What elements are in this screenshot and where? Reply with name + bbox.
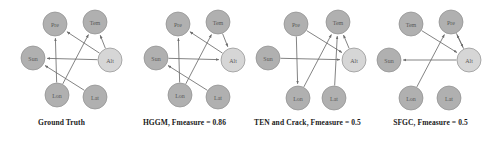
node-shape[interactable] <box>43 12 67 36</box>
graph-node-tem[interactable]: Tem <box>206 10 230 34</box>
graph-edge-pre-to-lon <box>296 36 297 83</box>
panel-caption-hggm: HGGM, Fmeasure = 0.86 <box>123 118 246 127</box>
node-shape[interactable] <box>399 12 423 36</box>
graph-node-pre[interactable]: Pre <box>166 12 190 36</box>
graph-node-lat[interactable]: Lat <box>437 86 461 110</box>
graph-edge-alt-to-pre <box>67 32 100 53</box>
graph-edge-alt-to-pre <box>190 32 223 53</box>
graph-panel-ground-truth: PreTemSunAltLonLatGround Truth <box>0 0 123 141</box>
graph-node-lon[interactable]: Lon <box>168 83 192 107</box>
node-shape[interactable] <box>439 10 463 34</box>
node-shape[interactable] <box>399 86 423 110</box>
graph-edge-pre-to-alt <box>456 33 463 47</box>
node-shape[interactable] <box>437 86 461 110</box>
graph-panel-ten-and-crack: PreTemSunAltLonLatTEN and Crack, Fmeasur… <box>246 0 369 141</box>
node-shape[interactable] <box>83 85 107 109</box>
panel-caption-sfgc: SFGC, Fmeasure = 0.5 <box>369 118 492 127</box>
node-shape[interactable] <box>342 48 366 72</box>
graph-node-lon[interactable]: Lon <box>399 86 423 110</box>
graph-panel-hggm: PreTemSunAltLonLatHGGM, Fmeasure = 0.86 <box>123 0 246 141</box>
graph-node-lat[interactable]: Lat <box>83 85 107 109</box>
graph-node-tem[interactable]: Tem <box>83 10 107 34</box>
panel-caption-ground-truth: Ground Truth <box>0 118 123 127</box>
node-group: PreTemSunAltLonLat <box>21 10 122 109</box>
edge-group <box>403 31 463 87</box>
node-shape[interactable] <box>98 48 122 72</box>
node-shape[interactable] <box>144 46 168 70</box>
graph-node-tem[interactable]: Tem <box>326 10 350 34</box>
node-shape[interactable] <box>206 85 230 109</box>
node-group: PreTemSunAltLonLat <box>256 10 366 110</box>
graph-edge-alt-to-tem <box>344 35 350 48</box>
node-shape[interactable] <box>168 83 192 107</box>
graph-node-alt[interactable]: Alt <box>342 48 366 72</box>
graph-edge-alt-to-tem <box>100 35 105 48</box>
node-group: PreTemSunAltLonLat <box>144 10 245 109</box>
node-shape[interactable] <box>45 83 69 107</box>
graph-edge-alt-to-sun <box>47 58 97 59</box>
graph-node-pre[interactable]: Pre <box>439 10 463 34</box>
node-shape[interactable] <box>326 10 350 34</box>
panel-caption-ten-and-crack: TEN and Crack, Fmeasure = 0.5 <box>246 118 369 127</box>
graph-canvas: PreTemSunAltLonLat <box>246 0 369 118</box>
graph-edge-lon-to-pre <box>417 35 445 87</box>
graph-edge-lat-to-tem <box>335 36 338 85</box>
graph-node-lon[interactable]: Lon <box>286 86 310 110</box>
graph-node-alt[interactable]: Alt <box>457 48 481 72</box>
node-shape[interactable] <box>166 12 190 36</box>
node-shape[interactable] <box>322 86 346 110</box>
node-shape[interactable] <box>377 48 401 72</box>
edge-group <box>45 32 105 91</box>
graph-comparison-figure: PreTemSunAltLonLatGround TruthPreTemSunA… <box>0 0 492 141</box>
graph-edge-sun-to-alt <box>168 58 218 59</box>
node-shape[interactable] <box>21 46 45 70</box>
graph-edge-lon-to-pre <box>55 38 56 82</box>
graph-panel-sfgc: TemPreSunAltLonLatSFGC, Fmeasure = 0.5 <box>369 0 492 141</box>
graph-edge-lon-to-pre <box>178 38 179 82</box>
node-shape[interactable] <box>221 48 245 72</box>
graph-node-sun[interactable]: Sun <box>21 46 45 70</box>
graph-node-lat[interactable]: Lat <box>322 86 346 110</box>
graph-canvas: TemPreSunAltLonLat <box>369 0 492 118</box>
node-shape[interactable] <box>256 46 280 70</box>
graph-edge-tem-to-alt <box>223 34 228 47</box>
graph-canvas: PreTemSunAltLonLat <box>0 0 123 118</box>
graph-node-lon[interactable]: Lon <box>45 83 69 107</box>
graph-node-alt[interactable]: Alt <box>98 48 122 72</box>
node-shape[interactable] <box>286 86 310 110</box>
graph-node-alt[interactable]: Alt <box>221 48 245 72</box>
graph-node-pre[interactable]: Pre <box>43 12 67 36</box>
graph-canvas: PreTemSunAltLonLat <box>123 0 246 118</box>
node-shape[interactable] <box>83 10 107 34</box>
graph-node-sun[interactable]: Sun <box>144 46 168 70</box>
node-shape[interactable] <box>206 10 230 34</box>
edge-group <box>280 31 349 87</box>
graph-node-sun[interactable]: Sun <box>256 46 280 70</box>
graph-node-tem[interactable]: Tem <box>399 12 423 36</box>
node-shape[interactable] <box>284 12 308 36</box>
edge-group <box>168 32 228 91</box>
graph-edge-sun-to-alt <box>280 58 339 59</box>
node-shape[interactable] <box>457 48 481 72</box>
graph-edge-lon-to-tem <box>304 35 332 87</box>
graph-node-sun[interactable]: Sun <box>377 48 401 72</box>
graph-node-lat[interactable]: Lat <box>206 85 230 109</box>
graph-node-pre[interactable]: Pre <box>284 12 308 36</box>
